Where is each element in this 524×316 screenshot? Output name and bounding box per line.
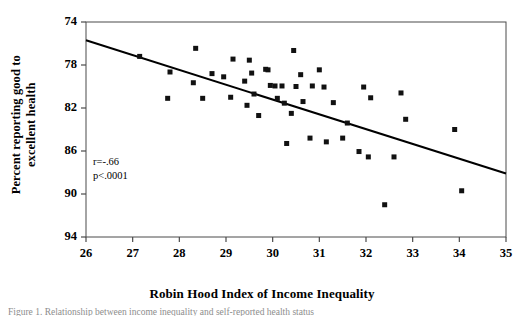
data-point [242, 79, 247, 84]
data-point [310, 83, 315, 88]
x-tick-label: 27 [118, 246, 148, 261]
data-point [345, 121, 350, 126]
data-point [301, 99, 306, 104]
data-point [366, 154, 371, 159]
x-tick-label: 30 [258, 246, 288, 261]
data-point [368, 95, 373, 100]
data-point [280, 83, 285, 88]
data-point [282, 101, 287, 106]
data-point [210, 71, 215, 76]
x-tick-label: 34 [444, 246, 474, 261]
data-point [308, 136, 313, 141]
y-tick-label: 86 [49, 143, 77, 158]
data-point [357, 149, 362, 154]
data-point [256, 113, 261, 118]
data-point [249, 71, 254, 76]
data-point [231, 57, 236, 62]
data-point [275, 96, 280, 101]
data-point [331, 100, 336, 105]
figure-caption: Figure 1. Relationship between income in… [8, 307, 518, 316]
y-tick-label: 94 [49, 229, 77, 244]
data-point [452, 127, 457, 132]
data-point [340, 136, 345, 141]
data-points [137, 46, 464, 207]
data-point [294, 84, 299, 89]
data-point [322, 85, 327, 90]
x-tick-label: 35 [491, 246, 521, 261]
x-tick-label: 31 [304, 246, 334, 261]
x-tick-label: 33 [398, 246, 428, 261]
data-point [165, 96, 170, 101]
data-point [193, 46, 198, 51]
plot-axes [81, 22, 506, 242]
data-point [168, 69, 173, 74]
data-point [392, 154, 397, 159]
data-point [399, 90, 404, 95]
annotation-correlation: r=-.66 [93, 156, 119, 167]
data-point [324, 139, 329, 144]
data-point [266, 67, 271, 72]
y-tick-label: 90 [49, 186, 77, 201]
x-axis-label: Robin Hood Index of Income Inequality [0, 286, 524, 302]
y-tick-label: 74 [49, 14, 77, 29]
data-point [317, 67, 322, 72]
data-point [191, 80, 196, 85]
trend-line [86, 40, 506, 173]
data-point [273, 83, 278, 88]
data-point [228, 95, 233, 100]
data-point [252, 92, 257, 97]
x-tick-label: 26 [71, 246, 101, 261]
data-point [289, 111, 294, 116]
data-point [221, 74, 226, 79]
data-point [382, 202, 387, 207]
scatter-plot-svg [0, 0, 524, 316]
data-point [268, 83, 273, 88]
data-point [137, 54, 142, 59]
data-point [245, 103, 250, 108]
data-point [361, 85, 366, 90]
x-tick-label: 32 [351, 246, 381, 261]
data-point [403, 117, 408, 122]
y-tick-label: 82 [49, 100, 77, 115]
data-point [247, 58, 252, 63]
data-point [459, 188, 464, 193]
x-tick-label: 28 [164, 246, 194, 261]
figure-container: Percent reporting good to excellent heal… [0, 0, 524, 316]
data-point [200, 96, 205, 101]
data-point [284, 141, 289, 146]
x-tick-label: 29 [211, 246, 241, 261]
annotation-pvalue: p<.0001 [93, 170, 128, 181]
y-tick-label: 78 [49, 57, 77, 72]
data-point [291, 48, 296, 53]
data-point [298, 72, 303, 77]
